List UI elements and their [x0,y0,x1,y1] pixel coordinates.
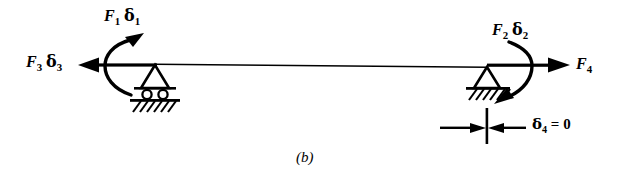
f3-force-symbol: F [26,53,37,70]
label-f1-delta1: F1 δ1 [104,8,140,27]
f3-force-arrow [78,58,157,73]
label-f3-delta3: F3 δ3 [26,54,62,73]
f3-force-subscript: 3 [37,61,42,73]
delta2-subscript: 2 [523,29,528,41]
beam-diagram-figure: F1 δ1 F3 δ3 F2 δ2 F4 δ4 = 0 (b) [0,0,631,178]
delta3-subscript: 3 [57,61,62,73]
f1-force-subscript: 1 [115,15,120,27]
f4-force-arrow [487,58,570,73]
label-f4: F4 [576,56,592,75]
delta4-symbol: δ [532,115,542,133]
delta3-symbol: δ [46,52,57,71]
label-delta4-equals-zero: δ4 = 0 [532,117,571,135]
delta1-symbol: δ [124,6,135,25]
roller-support-left [130,65,180,112]
f2-force-subscript: 2 [503,29,508,41]
f4-force-subscript: 4 [587,63,592,75]
delta4-subscript: 4 [542,124,547,135]
delta1-subscript: 1 [135,15,140,27]
delta4-value: 0 [563,116,571,132]
f4-force-symbol: F [576,55,587,72]
beam-diagram-canvas [0,0,631,178]
figure-caption: (b) [296,150,314,165]
f2-force-symbol: F [492,21,503,38]
label-f2-delta2: F2 δ2 [492,22,528,41]
delta4-zero-dimension [440,108,526,144]
f1-force-symbol: F [104,7,115,24]
equals-operator: = [551,116,560,132]
beam-member [155,64,487,69]
delta2-symbol: δ [512,20,523,39]
